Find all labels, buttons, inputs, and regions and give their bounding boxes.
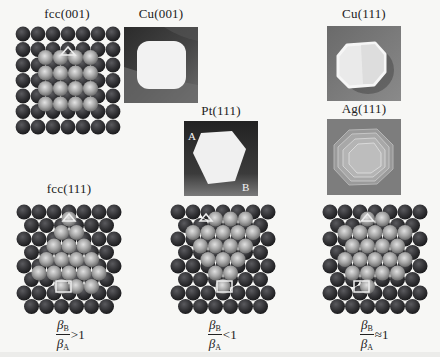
fraction: βB βA bbox=[56, 318, 70, 352]
ag111-stm-image bbox=[327, 119, 401, 195]
label-pt111: Pt(111) bbox=[181, 103, 261, 119]
label-fcc111: fcc(111) bbox=[28, 181, 110, 197]
fcc001-lattice-diagram bbox=[15, 26, 121, 136]
cu001-stm-image bbox=[124, 27, 198, 103]
fcc111-lattice-lt bbox=[170, 200, 278, 314]
label-cu001: Cu(001) bbox=[122, 6, 200, 22]
formula-ratio-eq: βB βA ≈1 bbox=[360, 318, 388, 352]
cu111-stm-image bbox=[327, 26, 401, 101]
corner-b-label: B bbox=[242, 181, 249, 193]
fraction: βB βA bbox=[208, 318, 222, 352]
cropped-caption-edge bbox=[0, 352, 440, 357]
corner-a-label: A bbox=[188, 130, 196, 142]
label-ag111: Ag(111) bbox=[324, 101, 404, 117]
pt111-stm-image: A B bbox=[184, 121, 258, 196]
substrate-atoms bbox=[16, 27, 121, 135]
label-fcc001: fcc(001) bbox=[26, 6, 108, 22]
label-cu111: Cu(111) bbox=[324, 6, 404, 22]
fraction: βB βA bbox=[360, 318, 374, 352]
formula-ratio-lt: βB βA <1 bbox=[208, 318, 237, 352]
fcc111-lattice-eq bbox=[322, 200, 430, 314]
formula-ratio-gt: βB βA >1 bbox=[56, 318, 85, 352]
relation: >1 bbox=[71, 327, 85, 343]
relation: ≈1 bbox=[375, 327, 389, 343]
relation: <1 bbox=[223, 327, 237, 343]
fcc111-lattice-gt bbox=[16, 200, 124, 314]
